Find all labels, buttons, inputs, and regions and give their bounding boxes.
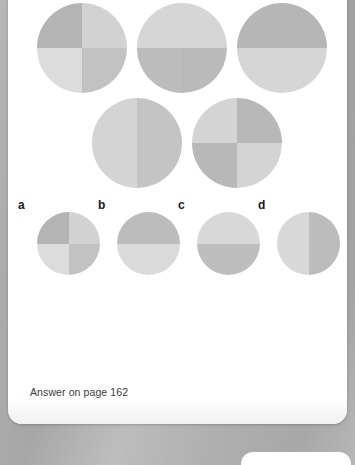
quadrant-top-left — [237, 3, 282, 48]
option-figure-b[interactable] — [117, 212, 180, 275]
option-label-b: b — [98, 199, 105, 211]
quadrant-bottom-left — [37, 244, 69, 276]
quadrant-top-right — [229, 212, 261, 244]
puzzle-figure-2 — [137, 3, 227, 93]
option-label-a: a — [18, 199, 25, 211]
quadrant-top-right — [137, 98, 182, 143]
option-figure-c[interactable] — [197, 212, 260, 275]
quadrant-bottom-left — [137, 48, 182, 93]
puzzle-figure-5 — [192, 98, 282, 188]
quadrant-bottom-left — [197, 244, 229, 276]
quadrant-top-left — [137, 3, 182, 48]
quadrant-bottom-right — [182, 48, 227, 93]
quadrant-top-left — [37, 3, 82, 48]
option-figure-d[interactable] — [277, 212, 340, 275]
option-label-c: c — [178, 199, 185, 211]
quadrant-bottom-right — [309, 244, 341, 276]
quadrant-bottom-right — [69, 244, 101, 276]
quadrant-top-right — [182, 3, 227, 48]
puzzle-page-root: a b c — [0, 0, 355, 465]
quadrant-bottom-right — [149, 244, 181, 276]
answer-options-row: a b c — [8, 199, 347, 289]
puzzle-figure-4 — [92, 98, 182, 188]
quadrant-top-left — [117, 212, 149, 244]
quadrant-top-left — [92, 98, 137, 143]
next-page-card-peek[interactable] — [241, 452, 351, 465]
quadrant-top-right — [82, 3, 127, 48]
quadrant-top-right — [149, 212, 181, 244]
quadrant-top-left — [37, 212, 69, 244]
quadrant-bottom-right — [82, 48, 127, 93]
quadrant-bottom-left — [237, 48, 282, 93]
quadrant-top-right — [237, 98, 282, 143]
puzzle-page-card: a b c — [8, 0, 347, 424]
quadrant-bottom-right — [137, 143, 182, 188]
quadrant-bottom-left — [92, 143, 137, 188]
puzzle-figure-1 — [37, 3, 127, 93]
puzzle-figure-3 — [237, 3, 327, 93]
quadrant-bottom-right — [229, 244, 261, 276]
quadrant-bottom-left — [192, 143, 237, 188]
answer-reference-note: Answer on page 162 — [30, 386, 128, 398]
option-label-d: d — [258, 199, 265, 211]
quadrant-bottom-right — [237, 143, 282, 188]
quadrant-top-right — [69, 212, 101, 244]
quadrant-top-left — [197, 212, 229, 244]
quadrant-top-right — [282, 3, 327, 48]
quadrant-top-left — [192, 98, 237, 143]
quadrant-top-right — [309, 212, 341, 244]
quadrant-bottom-left — [277, 244, 309, 276]
quadrant-bottom-left — [117, 244, 149, 276]
quadrant-bottom-right — [282, 48, 327, 93]
option-figure-a[interactable] — [37, 212, 100, 275]
quadrant-bottom-left — [37, 48, 82, 93]
quadrant-top-left — [277, 212, 309, 244]
